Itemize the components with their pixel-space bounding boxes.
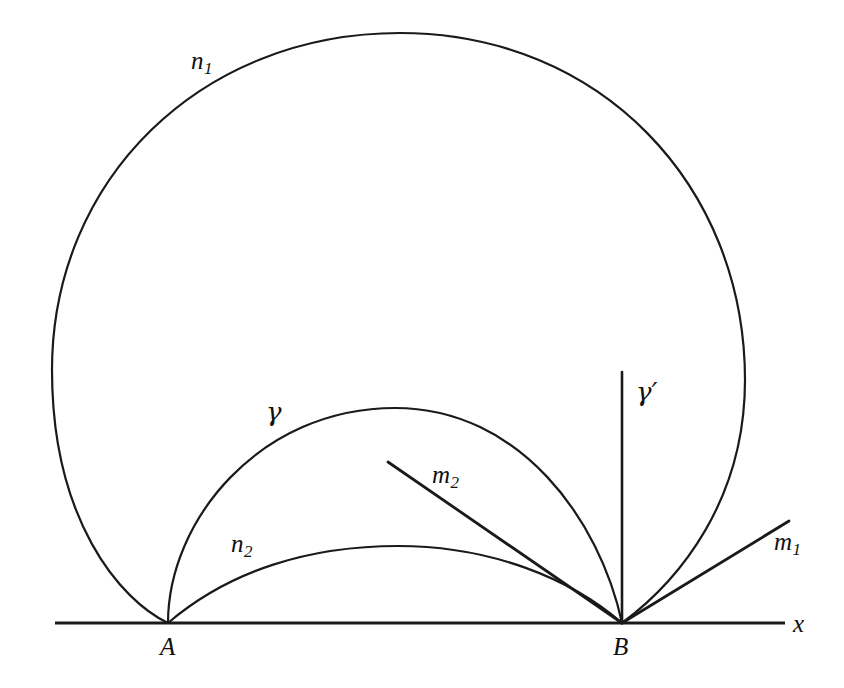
label-point-A: A	[160, 634, 175, 659]
line-m2	[388, 462, 622, 623]
label-n1-subscript: 1	[204, 59, 213, 78]
label-gamma-prime: γ′	[636, 379, 657, 405]
label-n1-base: n	[191, 47, 204, 74]
label-gamma-prime-mark: ′	[652, 377, 658, 407]
label-n2: n2	[231, 531, 253, 560]
label-gamma: γ	[266, 399, 282, 425]
label-m1-base: m	[774, 528, 792, 555]
label-point-A-text: A	[160, 633, 175, 660]
curve-n1	[52, 33, 745, 623]
geometry-figure: n1 γ n2 γ′ m2 m1 A B x	[0, 0, 844, 688]
label-gamma-prime-text: γ	[636, 377, 652, 407]
label-m2: m2	[432, 462, 459, 491]
label-m1: m1	[774, 529, 801, 558]
line-m1	[622, 521, 789, 623]
label-n1: n1	[191, 48, 213, 77]
label-m2-subscript: 2	[451, 473, 460, 492]
label-n2-subscript: 2	[244, 542, 253, 561]
label-m1-subscript: 1	[793, 540, 802, 559]
label-n2-base: n	[231, 530, 244, 557]
figure-canvas	[0, 0, 844, 688]
label-point-B-text: B	[613, 633, 628, 660]
curve-gamma	[168, 408, 622, 623]
label-m2-base: m	[432, 461, 450, 488]
label-x-axis: x	[793, 611, 804, 636]
label-gamma-text: γ	[266, 397, 282, 427]
label-point-B: B	[613, 634, 628, 659]
label-x-axis-text: x	[793, 610, 804, 637]
